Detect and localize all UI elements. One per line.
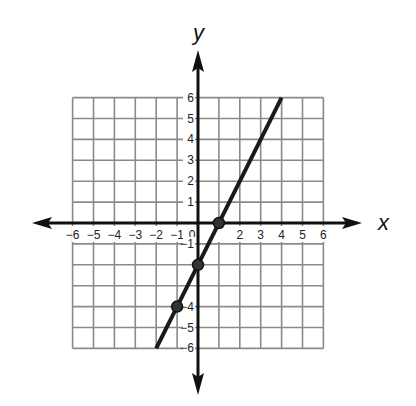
x-tick-label: −4 (108, 228, 122, 242)
x-tick-label: −3 (128, 228, 142, 242)
y-tick-label: 5 (187, 112, 194, 126)
x-tick-label: −2 (149, 228, 163, 242)
y-tick-label: −6 (180, 341, 194, 355)
y-tick-label: −5 (180, 321, 194, 335)
data-point (172, 301, 183, 312)
y-tick-label: −1 (180, 237, 194, 251)
y-tick-label: 2 (187, 174, 194, 188)
y-tick-label: 4 (187, 132, 194, 146)
x-tick-label: 4 (278, 228, 285, 242)
x-tick-label: 3 (257, 228, 264, 242)
data-point (213, 218, 224, 229)
axes: x y (32, 20, 390, 395)
y-tick-label: 1 (187, 195, 194, 209)
x-tick-label: −5 (87, 228, 101, 242)
y-tick-label: 6 (187, 91, 194, 105)
x-axis-label: x (377, 210, 390, 235)
x-tick-label: 5 (299, 228, 306, 242)
data-point (193, 259, 204, 270)
x-tick-label: −6 (66, 228, 80, 242)
x-tick-label: 2 (236, 228, 243, 242)
y-axis-label: y (191, 20, 206, 45)
x-tick-label: 6 (320, 228, 327, 242)
coordinate-plane: x y −6−5−4−3−2−1023456654321−1−4−5−6 (0, 0, 416, 406)
y-tick-label: 3 (187, 153, 194, 167)
